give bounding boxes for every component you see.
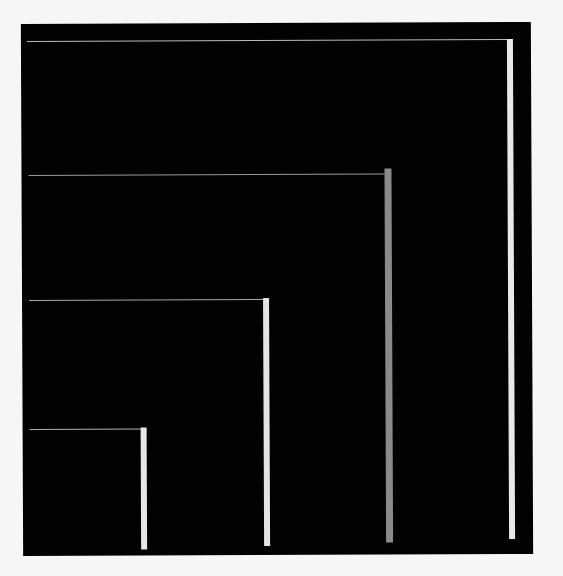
horizontal-line-3 [29, 299, 263, 301]
horizontal-line-4 [30, 429, 142, 430]
horizontal-line-1 [27, 39, 507, 42]
horizontal-line-2 [29, 174, 385, 177]
vertical-bar-1 [507, 39, 515, 539]
vertical-bar-4 [141, 428, 148, 550]
vertical-bar-3 [263, 298, 270, 546]
vertical-bar-2 [384, 168, 393, 542]
black-canvas [21, 22, 533, 556]
